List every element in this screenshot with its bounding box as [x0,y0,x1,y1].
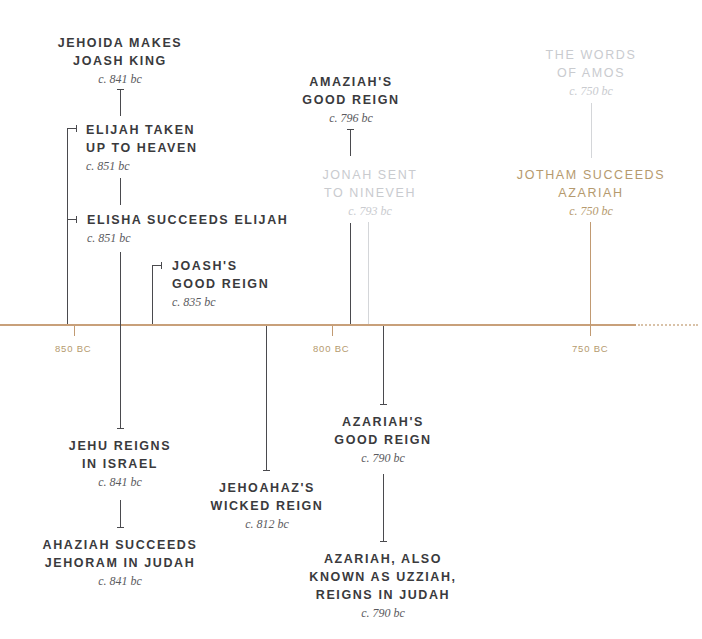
event-jehoahaz: JEHOAHAZ'S WICKED REIGN c. 812 bc [200,479,334,533]
event-title: REIGNS IN JUDAH [303,586,463,604]
connector-cap [347,129,354,130]
event-title: AMAZIAH'S [280,73,422,91]
event-date: c. 851 bc [86,157,198,175]
event-title: AZARIAH'S [313,413,453,431]
event-title: IN ISRAEL [40,455,200,473]
event-title: JEHU REIGNS [40,437,200,455]
tick-label-750bc: 750 BC [572,343,609,354]
event-date: c. 841 bc [40,473,200,491]
timeline-axis-continuation [638,324,698,326]
event-title: ELIJAH TAKEN [86,121,198,139]
event-title: GOOD REIGN [280,91,422,109]
connector-cap [117,428,124,429]
connector-elijah-arm [67,128,76,129]
connector-azariah [383,326,384,404]
event-date: c. 750 bc [510,202,672,220]
event-jonah: JONAH SENT TO NINEVEH c. 793 bc [300,166,440,220]
tick-800bc [332,326,333,336]
event-ahaziah: AHAZIAH SUCCEEDS JEHORAM IN JUDAH c. 841… [30,536,210,590]
connector-ahaziah [120,500,121,527]
event-title: KNOWN AS UZZIAH, [303,568,463,586]
connector-joash [152,265,153,324]
event-jehoida: JEHOIDA MAKES JOASH KING c. 841 bc [20,34,220,88]
event-title: AZARIAH [510,184,672,202]
event-date: c. 851 bc [87,229,288,247]
connector-amaziah-top [350,129,351,156]
event-elisha: ELISHA SUCCEEDS ELIJAH c. 851 bc [87,211,288,247]
event-date: c. 750 bc [520,82,662,100]
event-title: AZARIAH, ALSO [303,550,463,568]
event-title: UP TO HEAVEN [86,139,198,157]
connector-cap [76,125,77,132]
event-title: ELISHA SUCCEEDS ELIJAH [87,211,288,229]
event-title: THE WORDS [520,46,662,64]
connector-cap [380,541,387,542]
connector-elijah-elisha [120,178,121,205]
event-title: GOOD REIGN [313,431,453,449]
connector-jonah [368,222,369,324]
event-date: c. 841 bc [20,70,220,88]
event-date: c. 835 bc [172,293,269,311]
event-date: c. 790 bc [303,604,463,622]
connector-jehoida [120,89,121,116]
connector-cap [263,470,270,471]
connector-joash-arm [152,265,161,266]
event-title: JOASH'S [172,257,269,275]
connector-jehoahaz [266,326,267,470]
tick-label-800bc: 800 BC [313,343,350,354]
event-title: JEHOIDA MAKES [20,34,220,52]
connector-cap [76,216,77,223]
event-title: JONAH SENT [300,166,440,184]
event-joash: JOASH'S GOOD REIGN c. 835 bc [172,257,269,311]
event-date: c. 796 bc [280,109,422,127]
event-azariah-good: AZARIAH'S GOOD REIGN c. 790 bc [313,413,453,467]
event-amos: THE WORDS OF AMOS c. 750 bc [520,46,662,100]
connector-elijah [67,128,68,324]
connector-jotham [590,222,591,335]
tick-850bc [74,326,75,336]
event-title: TO NINEVEH [300,184,440,202]
event-jehu: JEHU REIGNS IN ISRAEL c. 841 bc [40,437,200,491]
connector-cap [117,527,124,528]
connector-jehu [120,252,121,428]
event-title: AHAZIAH SUCCEEDS [30,536,210,554]
timeline-axis [0,324,636,326]
connector-amos [591,103,592,158]
connector-azariah-uzziah [383,474,384,541]
event-date: c. 793 bc [300,202,440,220]
event-title: WICKED REIGN [200,497,334,515]
event-title: JOASH KING [20,52,220,70]
connector-amaziah [350,223,351,324]
event-azariah-uzziah: AZARIAH, ALSO KNOWN AS UZZIAH, REIGNS IN… [303,550,463,622]
connector-elisha-arm [67,219,76,220]
event-title: JOTHAM SUCCEEDS [510,166,672,184]
event-date: c. 812 bc [200,515,334,533]
connector-cap [161,262,162,269]
event-amaziah: AMAZIAH'S GOOD REIGN c. 796 bc [280,73,422,127]
event-title: JEHOAHAZ'S [200,479,334,497]
event-title: GOOD REIGN [172,275,269,293]
event-date: c. 841 bc [30,572,210,590]
event-title: OF AMOS [520,64,662,82]
event-elijah: ELIJAH TAKEN UP TO HEAVEN c. 851 bc [86,121,198,175]
event-date: c. 790 bc [313,449,453,467]
event-jotham: JOTHAM SUCCEEDS AZARIAH c. 750 bc [510,166,672,220]
connector-cap [380,404,387,405]
event-title: JEHORAM IN JUDAH [30,554,210,572]
connector-cap [117,89,124,90]
tick-label-850bc: 850 BC [55,343,92,354]
